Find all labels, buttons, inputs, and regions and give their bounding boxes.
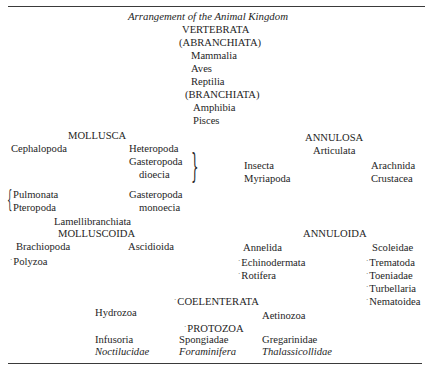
taxon-brachiopoda: Brachiopoda [16,241,70,253]
protozoa-label: PROTOZOA [187,323,243,334]
taxon-nematoidea-label: Nematoidea [369,296,420,307]
taxon-hydrozoa: Hydrozoa [95,307,137,319]
taxon-arachnida: Arachnida [371,160,415,172]
taxon-reptilia: Reptilia [191,76,225,88]
top-rule [8,6,425,7]
taxon-insecta: Insecta [244,160,274,172]
taxon-crustacea: Crustacea [371,173,413,185]
taxon-heteropoda: Heteropoda [129,143,178,155]
marker-dot-icon: · [174,296,176,304]
taxon-myriapoda: Myriapoda [244,173,290,185]
marker-dot-icon: · [366,283,368,291]
taxon-rotifera: ·Rotifera [238,268,276,282]
taxon-gasteropoda-dioecia: Gasteropoda [129,156,183,168]
taxon-gasteropoda-monoecia: Gasteropoda [129,189,183,201]
vertebrata-heading: VERTEBRATA [182,24,249,36]
marker-dot-icon: · [238,270,240,278]
protozoa-heading: ·PROTOZOA [184,321,244,335]
taxon-aves: Aves [191,63,212,75]
marker-dot-icon: · [10,256,12,264]
taxon-turbellaria-label: Turbellaria [369,283,416,294]
taxon-lamellibranchiata: Lamellibranchiata [54,216,131,228]
left-brace-icon: { [7,187,12,211]
taxon-spongiadae: Spongiadae [179,334,228,346]
coelenterata-label: COELENTERATA [177,296,259,307]
taxon-pisces: Pisces [193,115,219,127]
taxon-articulata: Articulata [313,145,355,157]
taxon-polyzoa: ·Polyzoa [10,254,47,268]
annulosa-heading: ANNULOSA [305,132,363,144]
taxon-noctilucidae: Noctilucidae [95,346,149,358]
taxon-annelida: Annelida [243,242,282,254]
taxon-pteropoda: Pteropoda [13,202,56,214]
taxon-polyzoa-label: Polyzoa [13,256,47,267]
taxon-rotifera-label: Rotifera [241,270,276,281]
taxon-trematoda: ·Trematoda [366,255,415,269]
annuloida-heading: ANNULOIDA [303,228,367,240]
taxon-pulmonata: Pulmonata [13,189,58,201]
taxon-nematoidea: ·Nematoidea [366,294,421,308]
taxon-echinodermata-label: Echinodermata [241,257,305,268]
taxon-aetinozoa: Aetinozoa [262,310,306,322]
taxon-mammalia: Mammalia [191,50,237,62]
marker-dot-icon: · [366,296,368,304]
taxon-cephalopoda: Cephalopoda [11,143,67,155]
coelenterata-heading: ·COELENTERATA [174,294,259,308]
branchiata-label: (BRANCHIATA) [185,89,259,101]
taxon-turbellaria: ·Turbellaria [366,281,416,295]
abranchiata-label: (ABRANCHIATA) [179,37,261,49]
marker-dot-icon: · [366,270,368,278]
marker-dot-icon: · [184,323,186,331]
taxon-toeniadae: ·Toeniadae [366,268,413,282]
taxon-infusoria: Infusoria [95,334,133,346]
right-brace-icon: } [191,148,199,182]
taxon-dioecia: dioecia [139,169,170,181]
taxon-monoecia: monoecia [139,202,180,214]
taxon-gregarinidae: Gregarinidae [262,334,317,346]
taxon-amphibia: Amphibia [193,102,235,114]
taxon-trematoda-label: Trematoda [369,257,415,268]
mollusca-heading: MOLLUSCA [68,130,126,142]
marker-dot-icon: · [366,257,368,265]
bottom-rule [8,363,422,364]
molluscoida-heading: MOLLUSCOIDA [58,228,135,240]
taxon-scoleidae: Scoleidae [372,242,413,254]
marker-dot-icon: · [238,257,240,265]
taxon-toeniadae-label: Toeniadae [369,270,412,281]
page-title: Arrangement of the Animal Kingdom [128,10,288,22]
taxon-ascidioida: Ascidioida [128,241,174,253]
taxon-thalassicollidae: Thalassicollidae [262,346,332,358]
taxon-foraminifera: Foraminifera [179,346,236,358]
taxon-echinodermata: ·Echinodermata [238,255,305,269]
